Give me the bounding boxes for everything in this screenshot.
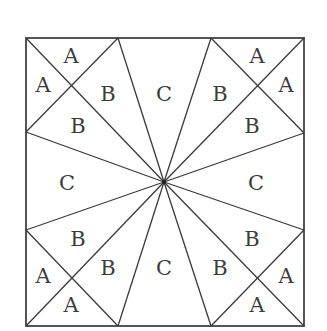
region-label-a: A xyxy=(248,44,265,68)
diag-bottom-right xyxy=(164,182,304,326)
spoke-top-left-inner xyxy=(118,38,164,182)
diag-top-right xyxy=(164,38,304,182)
spoke-bottom-left-inner xyxy=(118,182,164,326)
region-label-a: A xyxy=(277,73,294,97)
region-label-b: B xyxy=(70,114,85,138)
region-label-b: B xyxy=(212,256,227,280)
region-label-b: B xyxy=(212,82,227,106)
spoke-bottom-right-inner xyxy=(164,182,211,326)
region-label-a: A xyxy=(34,264,51,288)
spoke-left-upper xyxy=(26,132,164,182)
spoke-left-lower xyxy=(26,182,164,230)
region-label-a: A xyxy=(62,293,79,317)
square-triangle-diagram: AABBCBAABCCBBAACBBAA xyxy=(0,0,327,331)
region-label-b: B xyxy=(244,114,259,138)
spoke-right-upper xyxy=(164,133,304,182)
region-label-c: C xyxy=(156,82,172,106)
region-label-c: C xyxy=(59,171,75,195)
spoke-top-right-inner xyxy=(164,38,211,182)
region-label-b: B xyxy=(244,227,259,251)
spoke-right-lower xyxy=(164,182,304,230)
region-label-b: B xyxy=(100,256,115,280)
region-label-a: A xyxy=(277,264,294,288)
diag-bottom-left xyxy=(26,182,164,326)
region-label-a: A xyxy=(62,44,79,68)
center-point xyxy=(162,180,166,184)
region-label-b: B xyxy=(70,227,85,251)
region-label-b: B xyxy=(100,82,115,106)
region-label-a: A xyxy=(248,293,265,317)
region-label-a: A xyxy=(34,73,51,97)
region-label-c: C xyxy=(248,171,264,195)
region-label-c: C xyxy=(156,256,172,280)
